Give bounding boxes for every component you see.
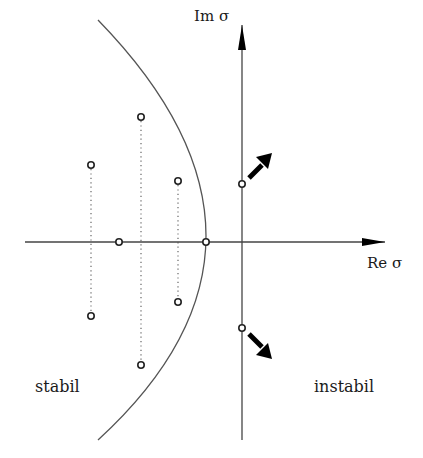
poles <box>88 114 245 368</box>
imaginary-axis-label: Im σ <box>194 7 229 25</box>
root-locus-diagram: Im σ Re σ stabil instabil <box>0 0 423 458</box>
pole-marker <box>138 114 144 120</box>
unstable-region-label: instabil <box>314 377 374 396</box>
arrow-up-right-icon <box>249 153 272 178</box>
pole-marker <box>138 362 144 368</box>
pole-marker <box>175 299 181 305</box>
stability-boundary-parabola <box>98 20 206 440</box>
conjugate-pair-connectors <box>91 121 178 361</box>
pole-marker <box>88 162 94 168</box>
critical-pole-marker <box>239 181 245 187</box>
stable-region-label: stabil <box>35 377 80 396</box>
pole-motion-arrows <box>249 153 272 359</box>
critical-pole-marker <box>239 325 245 331</box>
pole-marker <box>88 313 94 319</box>
real-axis-arrowhead-icon <box>362 238 385 246</box>
real-axis-label: Re σ <box>367 254 402 272</box>
arrow-down-right-icon <box>249 334 272 359</box>
pole-marker <box>116 239 122 245</box>
pole-marker <box>175 178 181 184</box>
pole-marker <box>203 239 209 245</box>
imaginary-axis-arrowhead-icon <box>238 25 246 50</box>
